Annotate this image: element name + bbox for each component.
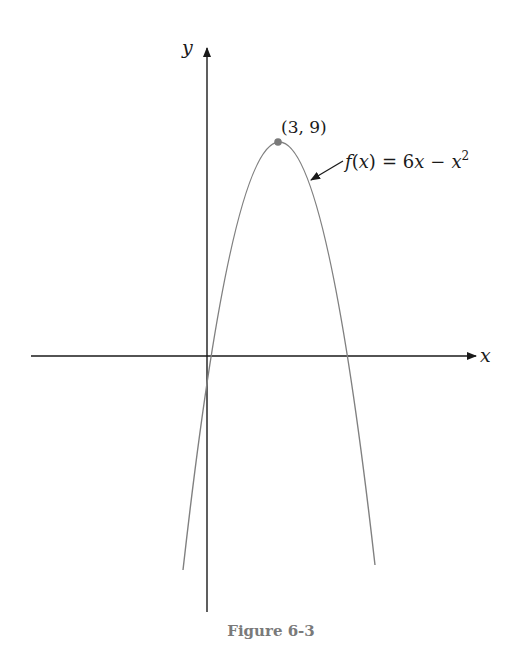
func-term-x2: x xyxy=(451,151,461,172)
parabola-figure: y x (3, 9) f(x)= 6x−x2 xyxy=(0,0,524,662)
func-minus: − xyxy=(430,151,445,172)
function-label: f(x)= 6x−x2 xyxy=(343,149,469,172)
func-arg-x: x xyxy=(359,151,369,172)
func-term-x: x xyxy=(414,151,424,172)
y-axis-label: y xyxy=(181,36,193,58)
func-arg: ( xyxy=(352,151,359,172)
func-exponent: 2 xyxy=(462,149,470,163)
figure-caption: Figure 6-3 xyxy=(0,622,524,640)
vertex-point xyxy=(274,138,282,146)
function-label-arrow xyxy=(311,161,343,180)
vertex-label: (3, 9) xyxy=(281,117,327,137)
x-axis-label: x xyxy=(480,344,491,366)
func-arg-close: ) xyxy=(369,151,376,172)
func-eq: = 6 xyxy=(382,151,414,172)
